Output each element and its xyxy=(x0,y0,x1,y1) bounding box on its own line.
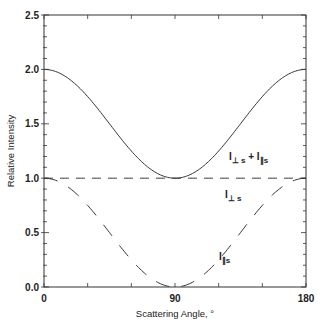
x-axis-title: Scattering Angle, ° xyxy=(136,308,214,319)
annotation-total: I⊥ s + I∥s xyxy=(229,151,269,165)
y-tick-label: 1.5 xyxy=(25,118,39,129)
series-parallel xyxy=(44,178,306,287)
chart: 0.00.51.01.52.02.5090180Scattering Angle… xyxy=(0,0,322,330)
y-tick-label: 2.0 xyxy=(25,64,39,75)
x-tick-label: 90 xyxy=(169,293,181,304)
y-tick-label: 0.0 xyxy=(25,282,39,293)
annotation-perpendicular: I⊥ s xyxy=(225,189,242,203)
y-tick-label: 0.5 xyxy=(25,227,39,238)
x-tick-label: 180 xyxy=(298,293,315,304)
y-axis-title: Relative Intensity xyxy=(5,115,16,188)
y-tick-label: 2.5 xyxy=(25,10,39,21)
x-tick-label: 0 xyxy=(41,293,47,304)
y-tick-label: 1.0 xyxy=(25,173,39,184)
plot-frame xyxy=(44,15,306,287)
